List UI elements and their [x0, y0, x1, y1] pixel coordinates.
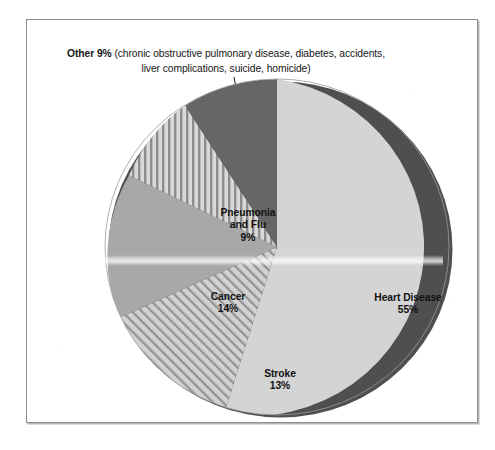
slice-label-pneumonia-and-flu: Pneumonia and Flu 9%	[202, 207, 294, 244]
slice-label-cancer: Cancer 14%	[185, 291, 271, 316]
figure-frame: Other 9% (chronic obstructive pulmonary …	[26, 19, 478, 423]
other-annotation-lead: Other 9%	[67, 48, 112, 59]
slice-label-stroke-value: 13%	[236, 380, 324, 392]
slice-label-cancer-name: Cancer	[185, 291, 271, 303]
other-annotation: Other 9% (chronic obstructive pulmonary …	[61, 47, 391, 76]
slice-label-heart-disease-value: 55%	[352, 304, 464, 316]
slice-label-cancer-value: 14%	[185, 303, 271, 315]
slice-label-pneumonia-line1: Pneumonia	[202, 207, 294, 219]
slice-label-heart-disease-name: Heart Disease	[352, 292, 464, 304]
slice-label-heart-disease: Heart Disease 55%	[352, 292, 464, 317]
slice-label-pneumonia-value: 9%	[202, 232, 294, 244]
pie-svg	[84, 77, 470, 417]
pie-chart: Heart Disease 55% Stroke 13% Cancer 14% …	[84, 77, 470, 417]
other-annotation-detail: (chronic obstructive pulmonary disease, …	[112, 48, 385, 74]
slice-label-stroke: Stroke 13%	[236, 368, 324, 393]
slice-label-pneumonia-line2: and Flu	[202, 219, 294, 231]
slice-label-stroke-name: Stroke	[236, 368, 324, 380]
